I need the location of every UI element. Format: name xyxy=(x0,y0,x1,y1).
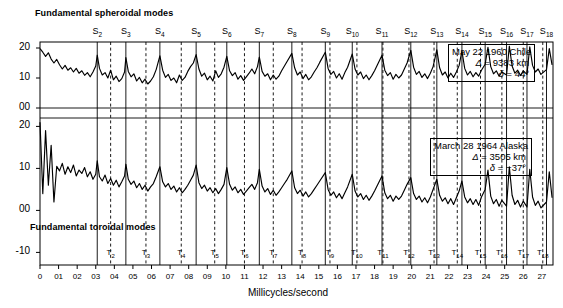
mode-label-t2: T2 xyxy=(102,248,120,259)
xtick-label: 14 xyxy=(291,272,309,281)
mode-label-s6: S6 xyxy=(217,26,237,38)
xtick-label: 12 xyxy=(254,272,272,281)
figure-seismic-spectra: Fundamental spheroidal modes Fundamental… xyxy=(0,0,563,308)
xtick-label: 18 xyxy=(366,272,384,281)
ytick-label: 10 xyxy=(4,161,30,172)
xtick-label: 02 xyxy=(68,272,86,281)
mode-label-t6: T6 xyxy=(235,248,253,259)
mode-label-s17: S17 xyxy=(517,26,537,38)
mode-label-t7: T7 xyxy=(264,248,282,259)
mode-label-t10: T10 xyxy=(348,248,366,259)
ytick-label: 00 xyxy=(4,203,30,214)
xtick-label: 03 xyxy=(87,272,105,281)
xtick-label: 16 xyxy=(328,272,346,281)
xtick-label: 10 xyxy=(217,272,235,281)
mode-label-s7: S7 xyxy=(249,26,269,38)
xtick-label: 24 xyxy=(477,272,495,281)
mode-label-t14: T14 xyxy=(448,248,466,259)
mode-label-t5: T5 xyxy=(206,248,224,259)
xtick-label: 06 xyxy=(143,272,161,281)
mode-label-t9: T9 xyxy=(321,248,339,259)
xtick-label: 07 xyxy=(161,272,179,281)
mode-label-s18: S18 xyxy=(536,26,556,38)
xtick-label: 09 xyxy=(198,272,216,281)
xtick-label: 0 xyxy=(31,272,49,281)
xtick-label: 20 xyxy=(403,272,421,281)
mode-label-t17: T17 xyxy=(514,248,532,259)
ytick-label: 00 xyxy=(4,101,30,112)
xtick-label: 26 xyxy=(514,272,532,281)
mode-label-s9: S9 xyxy=(315,26,335,38)
xtick-label: 04 xyxy=(105,272,123,281)
mode-label-t15: T15 xyxy=(472,248,490,259)
mode-label-s10: S10 xyxy=(342,26,362,38)
mode-label-t11: T11 xyxy=(374,248,392,259)
ytick-label: 10 xyxy=(4,71,30,82)
mode-label-s3: S3 xyxy=(116,26,136,38)
mode-label-s11: S11 xyxy=(372,26,392,38)
plot-canvas xyxy=(0,0,563,308)
mode-label-t3: T3 xyxy=(137,248,155,259)
ytick-label: 20 xyxy=(4,119,30,130)
xtick-label: 23 xyxy=(459,272,477,281)
mode-label-t4: T4 xyxy=(172,248,190,259)
xtick-label: 08 xyxy=(180,272,198,281)
xtick-label: 15 xyxy=(310,272,328,281)
mode-label-s4: S4 xyxy=(150,26,170,38)
mode-label-s15: S15 xyxy=(475,26,495,38)
xtick-label: 27 xyxy=(533,272,551,281)
xtick-label: 19 xyxy=(384,272,402,281)
mode-label-t8: T8 xyxy=(293,248,311,259)
xtick-label: 01 xyxy=(50,272,68,281)
mode-label-t12: T12 xyxy=(400,248,418,259)
mode-label-t18: T18 xyxy=(534,248,552,259)
mode-label-t16: T16 xyxy=(493,248,511,259)
xtick-label: 17 xyxy=(347,272,365,281)
mode-label-s14: S14 xyxy=(452,26,472,38)
ytick-label: 20 xyxy=(4,41,30,52)
ytick-label: -10 xyxy=(4,245,30,256)
trace-alaska xyxy=(40,122,552,208)
xtick-label: 13 xyxy=(273,272,291,281)
mode-label-t13: T13 xyxy=(425,248,443,259)
mode-label-s8: S8 xyxy=(282,26,302,38)
xtick-label: 11 xyxy=(235,272,253,281)
xtick-label: 05 xyxy=(124,272,142,281)
mode-label-s5: S5 xyxy=(186,26,206,38)
xtick-label: 25 xyxy=(496,272,514,281)
mode-label-s12: S12 xyxy=(401,26,421,38)
mode-label-s13: S13 xyxy=(427,26,447,38)
mode-label-s16: S16 xyxy=(497,26,517,38)
mode-label-s2: S2 xyxy=(87,26,107,38)
xtick-label: 21 xyxy=(421,272,439,281)
trace-chile xyxy=(40,46,552,84)
xtick-label: 22 xyxy=(440,272,458,281)
